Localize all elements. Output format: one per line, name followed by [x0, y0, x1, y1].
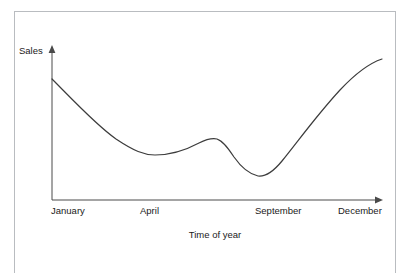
sales-curve-line [52, 59, 382, 176]
x-tick-label-january: January [51, 205, 85, 216]
x-tick-label-september: September [255, 205, 301, 216]
x-tick-label-december: December [338, 205, 382, 216]
y-axis [49, 45, 56, 200]
y-axis-title: Sales [19, 45, 43, 56]
y-axis-arrowhead-icon [49, 45, 56, 53]
x-tick-label-april: April [140, 205, 159, 216]
x-axis-title: Time of year [0, 229, 410, 240]
x-axis [52, 197, 383, 204]
x-axis-arrowhead-icon [375, 197, 383, 204]
